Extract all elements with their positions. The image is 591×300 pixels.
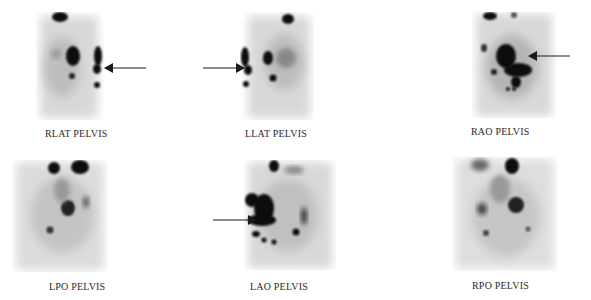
scan-image-lao xyxy=(244,160,336,270)
panel-label: LAO PELVIS xyxy=(250,281,308,292)
scan-image-rlat xyxy=(36,12,104,120)
scan-image-lpo xyxy=(12,160,108,272)
panel-label: RPO PELVIS xyxy=(472,280,529,291)
scan-image-llat xyxy=(240,12,314,120)
panel-label: RLAT PELVIS xyxy=(45,128,108,139)
panel-label: LPO PELVIS xyxy=(49,281,105,292)
panel-label: LLAT PELVIS xyxy=(245,128,307,139)
scan-image-rpo xyxy=(452,157,558,271)
panel-label: RAO PELVIS xyxy=(471,126,530,137)
scan-image-rao xyxy=(472,12,556,118)
arrow-icon xyxy=(528,51,570,61)
arrow-icon xyxy=(203,63,245,73)
arrow-icon xyxy=(213,215,257,225)
arrow-icon xyxy=(104,63,146,73)
